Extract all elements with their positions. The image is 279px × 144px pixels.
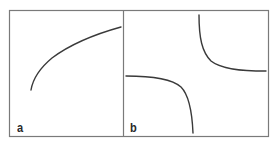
panel-a-curve (31, 27, 121, 90)
figure-frame (10, 11, 269, 137)
panel-b-label: b (130, 121, 137, 134)
figure (0, 0, 279, 144)
panel-b-right-branch (199, 15, 266, 71)
panel-b (126, 15, 266, 133)
panel-a-label: a (17, 121, 23, 134)
panel-a (31, 27, 121, 90)
